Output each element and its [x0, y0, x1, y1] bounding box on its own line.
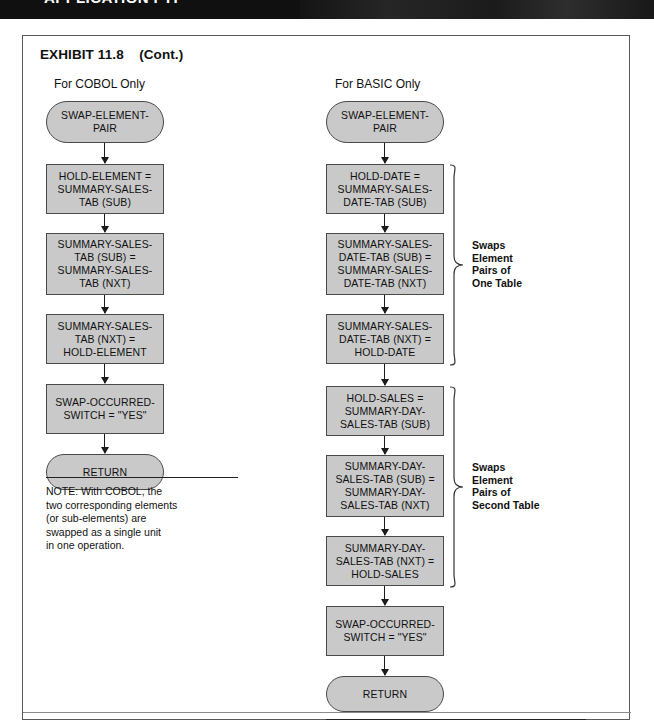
flow-node-cobol-step-2[interactable]: SUMMARY-SALES- TAB (SUB) = SUMMARY-SALES… [46, 233, 164, 295]
flow-node-label: SUMMARY-DAY- SALES-TAB (NXT) = HOLD-SALE… [332, 542, 439, 581]
page-title: EXHIBIT 11.8 (Cont.) [40, 47, 183, 62]
flow-arrow-basic-5 [384, 436, 385, 454]
flow-node-label: SWAP-ELEMENT- PAIR [57, 109, 153, 135]
flow-node-label: SWAP-OCCURRED- SWITCH = "YES" [331, 618, 439, 644]
flow-node-cobol-start[interactable]: SWAP-ELEMENT- PAIR [46, 101, 164, 143]
flow-arrow-cobol-3 [104, 295, 105, 313]
flow-node-label: SUMMARY-DAY- SALES-TAB (SUB) = SUMMARY-D… [331, 460, 438, 512]
flow-node-basic-step-3[interactable]: SUMMARY-SALES- DATE-TAB (NXT) = HOLD-DAT… [326, 314, 444, 364]
flow-arrow-cobol-4 [104, 364, 105, 383]
flow-node-label: SWAP-OCCURRED- SWITCH = "YES" [51, 396, 159, 422]
note-divider-basic [326, 719, 586, 720]
panel-bottom-rule [23, 712, 631, 713]
flow-node-basic-step-7[interactable]: SWAP-OCCURRED- SWITCH = "YES" [326, 606, 444, 656]
flow-node-label: HOLD-SALES = SUMMARY-DAY- SALES-TAB (SUB… [336, 392, 434, 431]
column-heading-cobol: For COBOL Only [54, 77, 145, 91]
flow-node-label: SUMMARY-SALES- TAB (SUB) = SUMMARY-SALES… [54, 238, 157, 290]
note-cobol: NOTE: With COBOL, the two corresponding … [46, 485, 251, 553]
flow-arrow-basic-4 [384, 364, 385, 385]
flow-arrow-basic-2 [384, 214, 385, 232]
flow-arrow-basic-1 [384, 143, 385, 163]
flow-node-label: SUMMARY-SALES- TAB (NXT) = HOLD-ELEMENT [54, 320, 157, 359]
exhibit-panel: EXHIBIT 11.8 (Cont.) For COBOL Only For … [22, 35, 630, 720]
note-divider-cobol-rule [46, 477, 238, 478]
flow-node-label: RETURN [359, 688, 411, 701]
flow-arrow-cobol-1 [104, 143, 105, 163]
flow-node-basic-step-5[interactable]: SUMMARY-DAY- SALES-TAB (SUB) = SUMMARY-D… [326, 455, 444, 517]
flow-arrow-basic-8 [384, 656, 385, 675]
column-heading-basic: For BASIC Only [335, 77, 420, 91]
flow-arrow-basic-7 [384, 586, 385, 605]
flow-node-cobol-step-4[interactable]: SWAP-OCCURRED- SWITCH = "YES" [46, 384, 164, 434]
flow-node-basic-start[interactable]: SWAP-ELEMENT- PAIR [326, 101, 444, 143]
flow-node-label: HOLD-DATE = SUMMARY-SALES- DATE-TAB (SUB… [334, 170, 437, 209]
flow-arrow-basic-3 [384, 295, 385, 313]
flow-node-label: SUMMARY-SALES- DATE-TAB (NXT) = HOLD-DAT… [334, 320, 437, 359]
flow-node-basic-return[interactable]: RETURN [326, 676, 444, 712]
flow-node-label: SWAP-ELEMENT- PAIR [337, 109, 433, 135]
application-fyi-banner: APPLICATION FYI [0, 0, 654, 19]
flow-node-cobol-step-1[interactable]: HOLD-ELEMENT = SUMMARY-SALES- TAB (SUB) [46, 164, 164, 214]
banner-title: APPLICATION FYI [44, 0, 178, 6]
flow-node-cobol-step-3[interactable]: SUMMARY-SALES- TAB (NXT) = HOLD-ELEMENT [46, 314, 164, 364]
flow-node-basic-step-2[interactable]: SUMMARY-SALES- DATE-TAB (SUB) = SUMMARY-… [326, 233, 444, 295]
flow-node-basic-step-1[interactable]: HOLD-DATE = SUMMARY-SALES- DATE-TAB (SUB… [326, 164, 444, 214]
flow-arrow-basic-6 [384, 517, 385, 535]
flow-arrow-cobol-2 [104, 214, 105, 232]
bracket-one-table-label: Swaps Element Pairs of One Table [472, 239, 522, 289]
bracket-one-table [448, 164, 468, 366]
bracket-second-table [448, 386, 468, 588]
banner-texture [300, 0, 654, 19]
flow-arrow-cobol-5 [104, 434, 105, 453]
flow-node-label: HOLD-ELEMENT = SUMMARY-SALES- TAB (SUB) [54, 170, 157, 209]
flow-node-label: SUMMARY-SALES- DATE-TAB (SUB) = SUMMARY-… [334, 238, 437, 290]
flow-node-basic-step-6[interactable]: SUMMARY-DAY- SALES-TAB (NXT) = HOLD-SALE… [326, 536, 444, 586]
bracket-second-table-label: Swaps Element Pairs of Second Table [472, 461, 540, 511]
flow-node-basic-step-4[interactable]: HOLD-SALES = SUMMARY-DAY- SALES-TAB (SUB… [326, 386, 444, 436]
